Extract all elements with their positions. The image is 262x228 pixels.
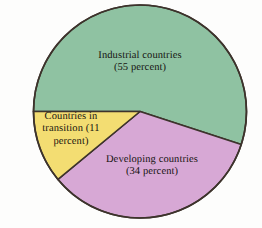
pie-chart: Industrial countries (55 percent) Countr… <box>0 0 262 228</box>
pie-slices <box>34 5 247 218</box>
pie-chart-svg <box>0 0 262 228</box>
